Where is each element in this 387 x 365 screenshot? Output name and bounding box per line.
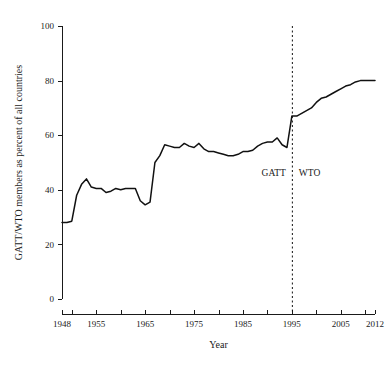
gatt-annotation-label: GATT xyxy=(262,168,286,178)
x-tick-label: 1995 xyxy=(283,319,302,329)
x-tick-label: 1975 xyxy=(185,319,204,329)
x-tick-label: 1948 xyxy=(53,319,72,329)
y-tick-label: 0 xyxy=(50,294,55,304)
y-tick-label: 100 xyxy=(41,21,55,31)
x-tick-label: 1985 xyxy=(234,319,253,329)
x-tick-label: 2005 xyxy=(332,319,351,329)
membership-series-line xyxy=(62,81,375,223)
chart-container: 020406080100 194819551965197519851995200… xyxy=(0,0,387,365)
x-axis-ticks xyxy=(63,310,376,314)
line-chart: 020406080100 194819551965197519851995200… xyxy=(0,0,387,365)
wto-annotation-label: WTO xyxy=(299,168,321,178)
y-tick-label: 60 xyxy=(45,130,55,140)
x-axis-title: Year xyxy=(209,339,228,350)
x-tick-label: 1965 xyxy=(136,319,155,329)
y-tick-label: 40 xyxy=(45,185,55,195)
y-tick-label: 20 xyxy=(45,240,55,250)
y-axis-ticks xyxy=(58,27,62,300)
y-tick-label: 80 xyxy=(45,76,55,86)
y-axis-title: GATT/WTO members as percent of all count… xyxy=(13,65,24,260)
x-tick-label: 2012 xyxy=(366,319,384,329)
x-axis-tick-labels: 19481955196519751985199520052012 xyxy=(53,319,384,329)
y-axis-tick-labels: 020406080100 xyxy=(41,21,55,304)
x-tick-label: 1955 xyxy=(87,319,106,329)
